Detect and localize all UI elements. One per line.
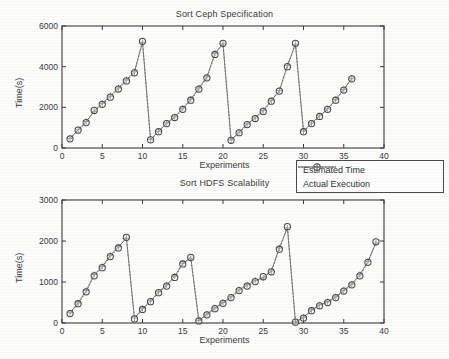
data-point-estimated [83, 119, 89, 125]
data-point-estimated [204, 312, 210, 318]
data-point-estimated [284, 64, 290, 70]
data-point-estimated [156, 290, 162, 296]
data-point-estimated [212, 306, 218, 312]
data-point-estimated [196, 318, 202, 324]
data-point-estimated [292, 319, 298, 325]
x-tick-label: 20 [218, 326, 228, 336]
data-point-estimated [99, 101, 105, 107]
x-tick-label: 0 [60, 151, 65, 161]
y-tick-label: 3000 [39, 195, 58, 205]
data-point-estimated [333, 97, 339, 103]
y-tick-label: 0 [53, 318, 58, 328]
data-point-estimated [123, 234, 129, 240]
data-point-estimated [349, 76, 355, 82]
data-point-estimated [172, 274, 178, 280]
data-point-estimated [357, 273, 363, 279]
data-point-estimated [172, 114, 178, 120]
data-point-estimated [308, 121, 314, 127]
data-point-estimated [220, 300, 226, 306]
data-point-estimated [188, 254, 194, 260]
data-point-estimated [115, 86, 121, 92]
data-point-estimated [236, 130, 242, 136]
data-point-estimated [91, 273, 97, 279]
data-point-estimated [131, 70, 137, 76]
data-point-estimated [268, 269, 274, 275]
data-point-estimated [260, 108, 266, 114]
x-tick-label: 10 [138, 326, 148, 336]
chart-legend: Estimated Time Actual Execution [296, 160, 444, 193]
data-point-estimated [252, 115, 258, 121]
x-tick-label: 0 [60, 326, 65, 336]
data-point-estimated [244, 122, 250, 128]
chart-panel-ceph: Sort Ceph Specification Time(s) Experime… [0, 0, 449, 180]
x-tick-label: 15 [178, 151, 188, 161]
data-point-estimated [220, 40, 226, 46]
data-point-estimated [75, 301, 81, 307]
data-point-estimated [365, 259, 371, 265]
y-tick-label: 6000 [39, 21, 58, 31]
data-point-estimated [260, 274, 266, 280]
plot-area-top: 05101520253035400200040006000 [0, 0, 449, 180]
data-point-estimated [308, 308, 314, 314]
data-point-estimated [99, 265, 105, 271]
data-point-estimated [317, 113, 323, 119]
data-point-estimated [244, 283, 250, 289]
data-point-estimated [341, 87, 347, 93]
data-point-estimated [325, 106, 331, 112]
data-point-estimated [115, 245, 121, 251]
x-tick-label: 5 [100, 326, 105, 336]
data-point-estimated [373, 239, 379, 245]
legend-label-actual: Actual Execution [303, 179, 370, 189]
legend-entry-actual: Actual Execution [301, 177, 439, 191]
plot-area-bottom: 05101520253035400100020003000 [0, 180, 449, 359]
data-point-estimated [212, 51, 218, 57]
x-tick-label: 20 [218, 151, 228, 161]
y-tick-label: 1000 [39, 277, 58, 287]
data-point-estimated [180, 106, 186, 112]
data-point-estimated [139, 306, 145, 312]
data-point-estimated [196, 86, 202, 92]
data-point-estimated [276, 246, 282, 252]
data-point-estimated [147, 137, 153, 143]
data-point-estimated [188, 97, 194, 103]
data-point-estimated [325, 299, 331, 305]
data-point-estimated [139, 38, 145, 44]
data-point-estimated [67, 136, 73, 142]
data-point-estimated [228, 137, 234, 143]
data-point-estimated [164, 121, 170, 127]
data-point-estimated [75, 127, 81, 133]
data-point-estimated [83, 289, 89, 295]
data-point-estimated [284, 224, 290, 230]
data-point-estimated [91, 107, 97, 113]
series-line-actual [70, 228, 376, 322]
y-tick-label: 0 [53, 143, 58, 153]
data-point-estimated [349, 282, 355, 288]
x-tick-label: 30 [299, 326, 309, 336]
x-tick-label: 15 [178, 326, 188, 336]
data-point-estimated [204, 75, 210, 81]
data-point-estimated [317, 303, 323, 309]
series-line-estimated [70, 227, 376, 323]
figure-canvas: Sort Ceph Specification Time(s) Experime… [0, 0, 449, 359]
x-tick-label: 25 [259, 326, 269, 336]
x-tick-label: 25 [259, 151, 269, 161]
data-point-estimated [300, 315, 306, 321]
data-point-estimated [147, 299, 153, 305]
data-point-estimated [300, 129, 306, 135]
data-point-estimated [67, 310, 73, 316]
data-point-estimated [123, 78, 129, 84]
x-tick-label: 10 [138, 151, 148, 161]
y-tick-label: 2000 [39, 102, 58, 112]
y-tick-label: 2000 [39, 236, 58, 246]
data-point-estimated [156, 129, 162, 135]
data-point-estimated [333, 294, 339, 300]
chart-panel-hdfs: Sort HDFS Scalability Time(s) Experiment… [0, 180, 449, 359]
data-point-estimated [276, 88, 282, 94]
data-point-estimated [228, 294, 234, 300]
data-point-estimated [107, 94, 113, 100]
data-point-estimated [341, 288, 347, 294]
legend-sample-solid-plus-icon [297, 161, 337, 173]
data-point-estimated [236, 288, 242, 294]
x-tick-label: 35 [339, 326, 349, 336]
x-tick-label: 40 [379, 326, 389, 336]
